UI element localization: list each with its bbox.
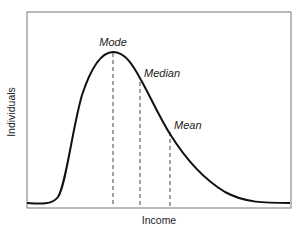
- x-axis-label: Income: [142, 214, 177, 226]
- income-distribution-chart: Mode Median Mean Income Individuals: [0, 0, 302, 233]
- mode-label: Mode: [99, 36, 127, 48]
- y-axis-label: Individuals: [5, 87, 17, 137]
- plot-frame: [27, 12, 291, 208]
- mean-label: Mean: [174, 119, 202, 131]
- median-label: Median: [144, 67, 180, 79]
